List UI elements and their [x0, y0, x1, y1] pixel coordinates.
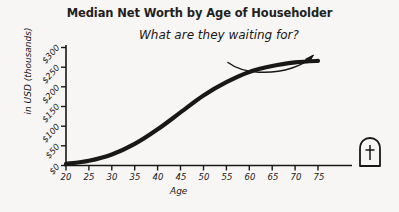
- x-tick-label: 60: [238, 172, 262, 182]
- x-tick-label: 75: [307, 172, 331, 182]
- x-tick-label: 45: [169, 172, 193, 182]
- data-series-line: [66, 61, 318, 164]
- x-tick-label: 40: [146, 172, 170, 182]
- chart-container: Median Net Worth by Age of Householder W…: [0, 0, 399, 212]
- tombstone-marker-icon: [360, 138, 380, 166]
- x-tick-label: 25: [77, 172, 101, 182]
- x-tick-label: 55: [215, 172, 239, 182]
- x-tick-label: 35: [123, 172, 147, 182]
- x-tick-label: 70: [284, 172, 308, 182]
- x-tick-label: 20: [54, 172, 78, 182]
- x-tick-label: 50: [192, 172, 216, 182]
- x-tick-label: 65: [261, 172, 285, 182]
- x-tick-label: 30: [100, 172, 124, 182]
